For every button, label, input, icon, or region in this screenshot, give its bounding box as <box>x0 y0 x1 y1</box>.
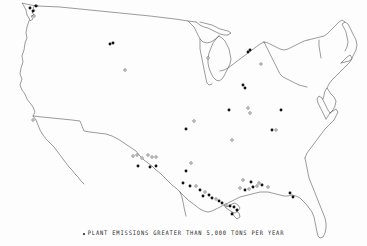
emission-point-marker <box>185 128 188 131</box>
emission-point-marker <box>151 156 154 159</box>
emission-point-marker <box>267 186 270 189</box>
emission-point-marker <box>182 182 185 185</box>
emission-point-marker <box>112 42 115 45</box>
new-england-coast-path <box>342 22 357 58</box>
emission-point-marker <box>109 43 112 46</box>
emission-point-marker <box>193 120 196 123</box>
emission-point-marker <box>211 197 214 200</box>
emission-point-marker <box>185 170 188 173</box>
emission-point-marker <box>141 157 144 160</box>
florida-coast-path <box>292 158 326 238</box>
emission-point-marker <box>292 196 295 199</box>
emission-point-marker <box>236 209 239 212</box>
emission-point-marker <box>208 194 211 197</box>
emission-point-marker <box>32 119 35 122</box>
emissions-point-map-figure: PLANT EMISSIONS GREATER THAN 5,000 TONS … <box>0 0 367 246</box>
emission-point-marker <box>242 179 245 182</box>
lake-erie-path <box>264 42 307 87</box>
emission-point-marker <box>233 206 236 209</box>
emission-point-marker <box>247 107 250 110</box>
emission-point-marker <box>195 185 198 188</box>
emission-point-marker <box>207 57 210 60</box>
emission-point-marker <box>260 63 263 66</box>
emission-point-marker <box>229 205 232 208</box>
emission-point-marker <box>249 112 252 115</box>
emission-points-layer <box>29 5 295 216</box>
emission-point-marker <box>202 195 205 198</box>
emission-point-marker <box>204 191 207 194</box>
emission-point-marker <box>250 181 253 184</box>
emission-point-marker <box>147 154 150 157</box>
emission-point-marker <box>155 156 158 159</box>
emission-point-marker <box>275 129 278 132</box>
emission-point-marker <box>261 184 264 187</box>
mexico-border-path <box>33 116 180 192</box>
emission-point-marker <box>136 154 139 157</box>
emission-point-marker <box>190 162 193 165</box>
emission-point-marker <box>32 10 35 13</box>
emission-point-marker <box>215 198 218 201</box>
emission-point-marker <box>244 189 247 192</box>
emission-point-marker <box>221 202 224 205</box>
delmarva-path <box>323 88 336 113</box>
texas-south-tip-path <box>180 192 186 216</box>
emission-point-marker <box>249 49 252 52</box>
emission-point-marker <box>35 5 38 8</box>
emission-point-marker <box>149 166 152 169</box>
emission-point-marker <box>271 129 274 132</box>
emission-point-marker <box>289 192 292 195</box>
emission-point-marker <box>132 155 135 158</box>
emission-point-marker <box>239 187 242 190</box>
emission-point-marker <box>252 186 255 189</box>
lake-superior-path <box>188 21 219 43</box>
emission-point-marker <box>137 165 140 168</box>
emission-point-marker <box>29 7 32 10</box>
emission-point-marker <box>256 185 259 188</box>
emission-point-marker <box>155 165 158 168</box>
michigan-lower-peninsula-path <box>208 36 231 81</box>
lake-ontario-path <box>220 42 264 71</box>
emission-point-marker <box>228 109 231 112</box>
emission-point-marker <box>231 139 234 142</box>
maine-border-path <box>308 20 345 40</box>
emission-point-marker <box>225 204 228 207</box>
ny-northern-border-path <box>264 40 308 50</box>
emission-point-marker <box>189 185 192 188</box>
emission-point-marker <box>199 189 202 192</box>
hudson-valley-path <box>319 40 321 58</box>
michigan-upper-peninsula-path <box>196 22 231 35</box>
southeast-atlantic-path <box>305 109 338 158</box>
mid-atlantic-coast-path <box>327 55 352 88</box>
lake-michigan-west-path <box>200 39 212 85</box>
emission-point-marker <box>231 213 234 216</box>
emission-point-marker <box>244 87 247 90</box>
northern-border-path <box>38 6 196 22</box>
west-coast-path <box>20 21 84 184</box>
emission-point-marker <box>258 182 261 185</box>
emission-point-marker <box>124 69 127 72</box>
usa-map-svg <box>0 0 367 246</box>
emission-point-marker <box>280 109 283 112</box>
emission-point-marker <box>218 200 221 203</box>
emission-point-marker <box>242 84 245 87</box>
emission-point-marker <box>248 188 251 191</box>
emission-point-marker <box>33 15 36 18</box>
